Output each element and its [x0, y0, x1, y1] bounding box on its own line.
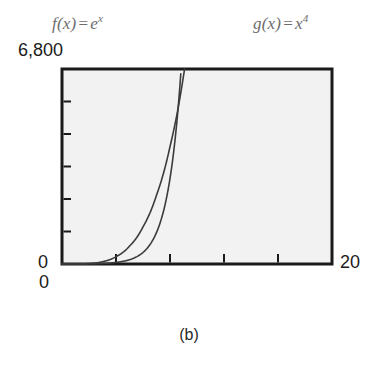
- figure-caption: (b): [0, 326, 378, 344]
- figure-container: f(x)=ex g(x)=x4 6,800 0 0 20 (b): [0, 0, 378, 368]
- plot-background: [62, 69, 332, 264]
- plot-area: [0, 0, 378, 368]
